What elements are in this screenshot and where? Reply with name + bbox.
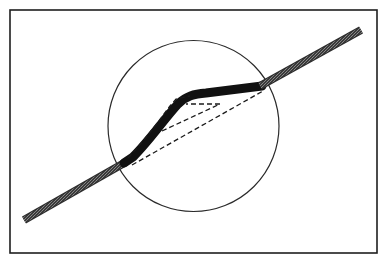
dashed-chord bbox=[132, 91, 263, 165]
diagram-frame bbox=[10, 10, 377, 253]
band bbox=[24, 30, 361, 220]
band-left-texture bbox=[24, 162, 126, 220]
band-right-texture bbox=[260, 30, 361, 86]
construction-lines bbox=[128, 91, 263, 165]
band-kinked-core bbox=[124, 86, 262, 163]
diagram-canvas bbox=[0, 0, 387, 266]
focus-circle bbox=[108, 41, 279, 212]
